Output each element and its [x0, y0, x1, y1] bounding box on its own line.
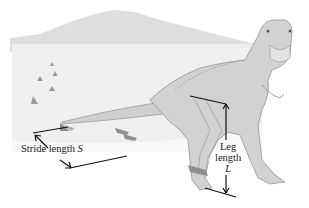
leg-label-line2: length [215, 152, 241, 163]
dinosaur-eye-left [267, 30, 270, 33]
stride-length-symbol: S [78, 143, 83, 154]
leg-length-label: Leg length L [215, 141, 241, 174]
dinosaur-eye-right [289, 30, 292, 33]
stride-length-text: Stride length [21, 143, 75, 154]
dinosaur-stride-diagram [0, 0, 309, 208]
leg-length-symbol: L [225, 163, 231, 174]
stride-length-label: Stride length S [21, 143, 83, 154]
leg-label-line1: Leg [215, 141, 241, 152]
